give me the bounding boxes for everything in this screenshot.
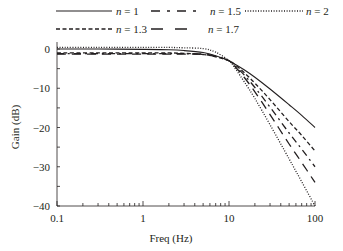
legend: n = 1n = 1.5n = 2n = 1.3n = 1.7 [56, 5, 329, 35]
curves [57, 47, 315, 206]
legend-label: n = 1.3 [116, 23, 147, 35]
y-tick-label: −30 [33, 161, 51, 173]
y-tick-label: −20 [33, 122, 51, 134]
legend-label: n = 2 [306, 5, 329, 17]
curve-n1-3 [57, 53, 315, 151]
y-axis-ticks: 0−10−20−30−40 [33, 43, 60, 212]
x-axis-title: Freq (Hz) [149, 232, 192, 245]
y-tick-label: −40 [33, 200, 51, 212]
curve-n1 [57, 49, 315, 128]
legend-label: n = 1.5 [210, 5, 241, 17]
x-axis-ticks: 0.1110100 [50, 201, 324, 224]
gain-vs-frequency-chart: n = 1n = 1.5n = 2n = 1.3n = 1.7 0−10−20−… [0, 0, 343, 251]
y-tick-label: 0 [45, 43, 51, 55]
x-tick-label: 10 [224, 212, 236, 224]
x-tick-label: 100 [307, 212, 324, 224]
x-tick-label: 1 [140, 212, 146, 224]
curve-n2 [57, 47, 315, 206]
curve-n1-5 [57, 54, 315, 167]
legend-label: n = 1.7 [208, 23, 239, 35]
plot-area: 0−10−20−30−40 0.1110100 [33, 42, 324, 224]
y-axis-title: Gain (dB) [9, 105, 22, 150]
y-tick-label: −10 [33, 82, 51, 94]
legend-label: n = 1 [116, 5, 139, 17]
x-tick-label: 0.1 [50, 212, 64, 224]
curve-n1-7 [57, 54, 315, 182]
